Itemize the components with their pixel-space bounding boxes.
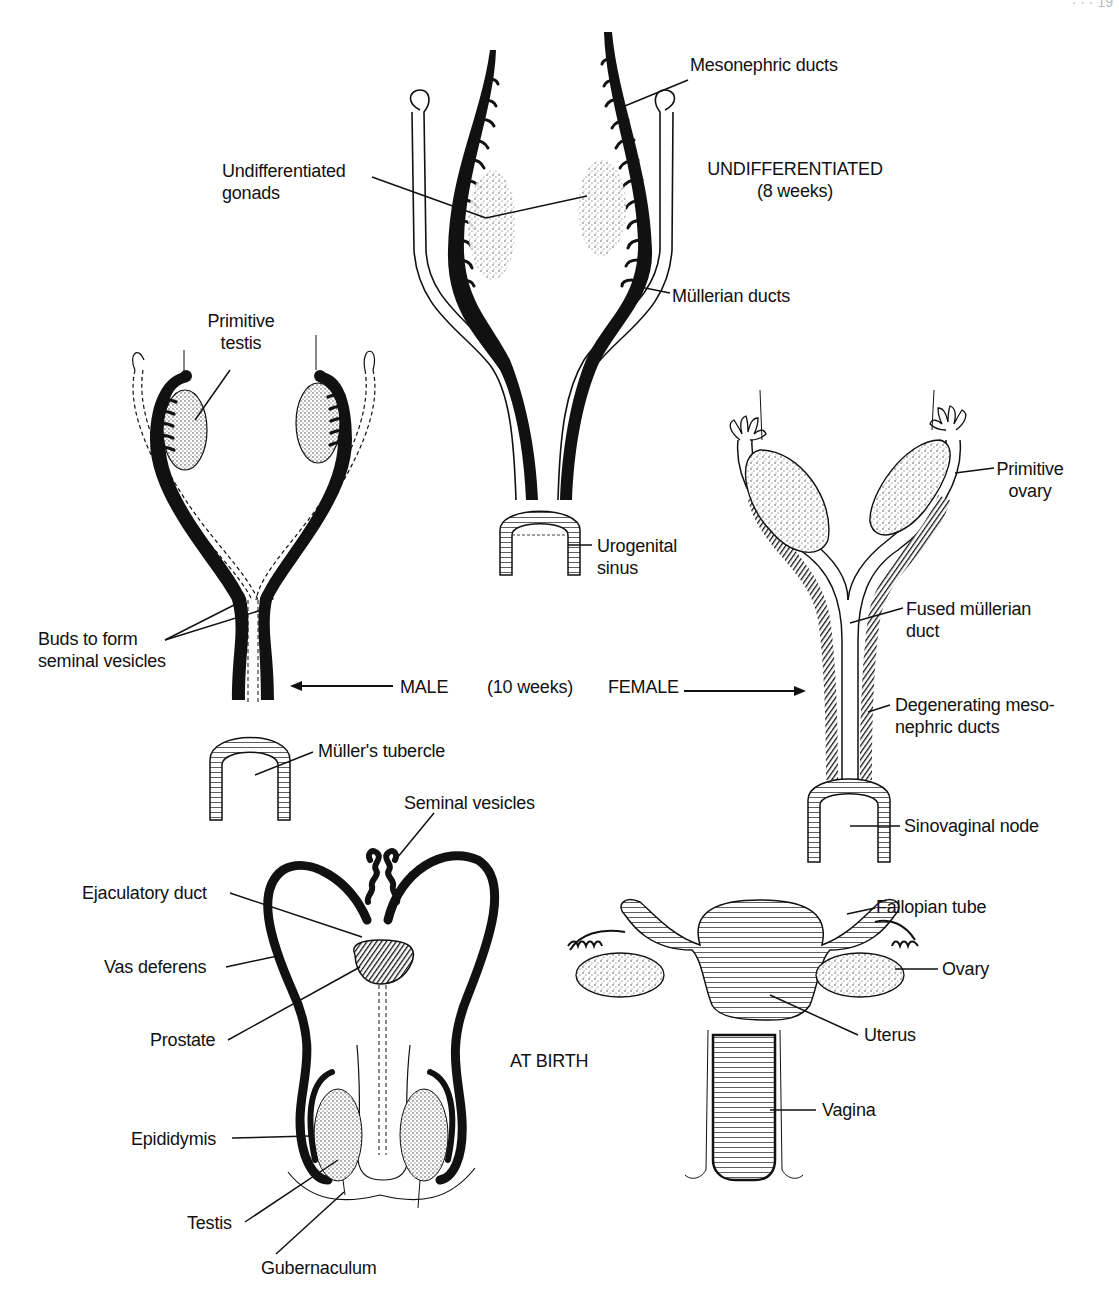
label-ovary: Ovary — [942, 958, 989, 980]
label-buds-seminal-vesicles: Buds to form seminal vesicles — [38, 628, 166, 672]
label-primitive-testis: Primitive testis — [196, 310, 286, 354]
label-vagina: Vagina — [822, 1099, 876, 1121]
stage-title-at-birth: AT BIRTH — [510, 1050, 588, 1072]
label-prostate: Prostate — [150, 1029, 215, 1051]
label-primitive-ovary: Primitive ovary — [990, 458, 1070, 502]
label-ejaculatory-duct: Ejaculatory duct — [82, 882, 207, 904]
label-sinovaginal-node: Sinovaginal node — [904, 815, 1039, 837]
stage-title-male: MALE — [400, 676, 448, 698]
label-fused-mullerian-duct: Fused müllerian duct — [906, 598, 1031, 642]
undifferentiated-diagram — [372, 32, 688, 575]
label-mullerian-ducts: Müllerian ducts — [672, 285, 790, 307]
label-fallopian-tube: Fallopian tube — [876, 896, 986, 918]
label-undifferentiated-gonads: Undifferentiated gonads — [222, 160, 346, 204]
stage-title-ten-weeks: (10 weeks) — [487, 676, 573, 698]
label-testis: Testis — [187, 1212, 232, 1234]
label-degenerating-mesonephric-ducts: Degenerating meso- nephric ducts — [895, 694, 1055, 738]
label-uterus: Uterus — [864, 1024, 916, 1046]
male-birth-diagram — [226, 813, 495, 1254]
label-seminal-vesicles: Seminal vesicles — [404, 792, 535, 814]
label-urogenital-sinus: Urogenital sinus — [597, 535, 677, 579]
label-vas-deferens: Vas deferens — [104, 956, 206, 978]
anatomy-illustration — [0, 0, 1119, 1312]
page-header-fragment: · · · 19 — [1072, 0, 1113, 10]
stage-title-undifferentiated: UNDIFFERENTIATED (8 weeks) — [700, 158, 890, 202]
label-epididymis: Epididymis — [131, 1128, 216, 1150]
stage-title-female: FEMALE — [608, 676, 679, 698]
reproductive-development-figure: · · · 19 UNDIFFERENTIATED (8 weeks) MALE… — [0, 0, 1119, 1312]
label-mullers-tubercle: Müller's tubercle — [318, 740, 445, 762]
label-mesonephric-ducts: Mesonephric ducts — [690, 54, 838, 76]
label-gubernaculum: Gubernaculum — [261, 1257, 377, 1279]
